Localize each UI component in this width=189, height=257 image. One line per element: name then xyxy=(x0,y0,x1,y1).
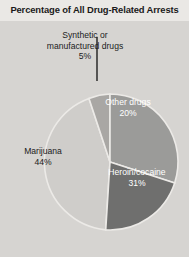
slice-label-heroin-cocaine: Heroin/cocaine 31% xyxy=(95,167,179,188)
callout-synthetic-drugs: Synthetic or manufactured drugs 5% xyxy=(14,30,156,62)
callout-synthetic-line1: Synthetic or xyxy=(14,30,156,41)
slice-label-other-drugs-name: Other drugs xyxy=(97,97,159,108)
page-title: Percentage of All Drug-Related Arrests xyxy=(0,4,189,15)
slice-label-heroin-cocaine-value: 31% xyxy=(95,178,179,189)
slice-label-marijuana-name: Marijuana xyxy=(5,146,81,157)
callout-synthetic-value: 5% xyxy=(14,51,156,62)
chart-plot-area: Synthetic or manufactured drugs 5% Other… xyxy=(0,21,189,257)
pie-chart-figure: Percentage of All Drug-Related Arrests S… xyxy=(0,0,189,257)
chart-title-band: Percentage of All Drug-Related Arrests xyxy=(0,0,189,21)
slice-label-other-drugs-value: 20% xyxy=(97,108,159,119)
callout-synthetic-line2: manufactured drugs xyxy=(14,41,156,52)
slice-label-marijuana-value: 44% xyxy=(5,157,81,168)
slice-label-marijuana: Marijuana 44% xyxy=(5,146,81,167)
slice-label-other-drugs: Other drugs 20% xyxy=(97,97,159,118)
slice-label-heroin-cocaine-name: Heroin/cocaine xyxy=(95,167,179,178)
